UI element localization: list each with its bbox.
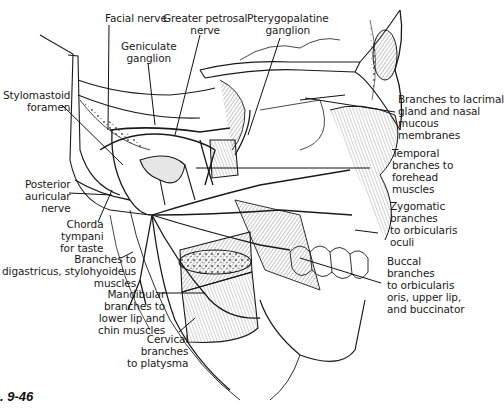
label-digastricus-branches: Branches to digastricus, stylohyoideus m… [2,253,136,289]
label-pterygopalatine-ganglion: Pterygopalatine ganglion [247,12,329,36]
label-temporal-branches: Temporal branches to forehead muscles [392,147,453,195]
label-mandibular-branches: Mandibular branches to lower lip and chi… [98,288,165,336]
label-lacrimal-branches: Branches to lacrimal gland and nasal muc… [398,93,504,141]
label-buccal-branches: Buccal branches to orbicularis oris, upp… [387,255,464,315]
label-posterior-auricular-nerve: Posterior auricular nerve [25,178,71,214]
label-facial-nerve: Facial nerve [105,12,167,24]
label-stylomastoid-foramen: Stylomastoid foramen [3,89,70,113]
label-geniculate-ganglion: Geniculate ganglion [121,40,177,64]
label-zygomatic-branches: Zygomatic branches to orbicularis oculi [390,200,457,248]
skull-outline [40,10,402,400]
label-greater-petrosal-nerve: Greater petrosal nerve [163,12,247,36]
label-cervical-branches: Cervical branches to platysma [127,333,188,369]
figure-caption: g. 9-46 [0,389,33,404]
label-chorda-tympani: Chorda tympani for taste [60,218,103,254]
